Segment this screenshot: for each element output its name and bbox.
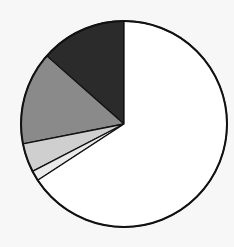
pie-chart: [0, 0, 234, 247]
